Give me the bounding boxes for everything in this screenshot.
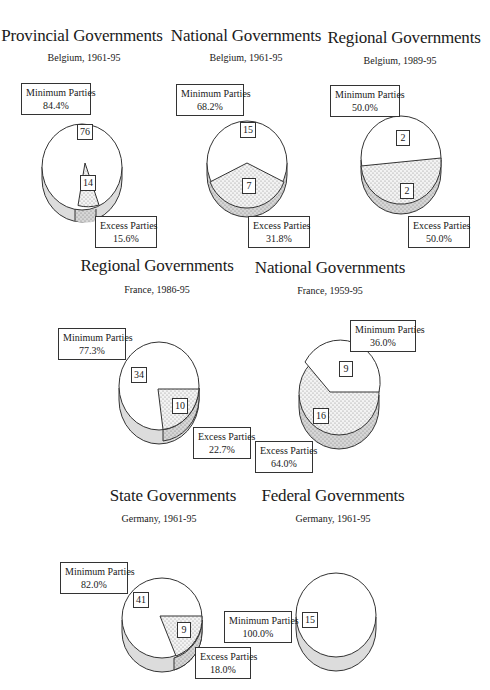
- chart-subtitle: Belgium, 1989-95: [364, 55, 437, 66]
- slice-count-minimum: 2: [396, 130, 410, 146]
- slice-count-excess: 14: [80, 175, 96, 191]
- slice-count-excess: 10: [172, 398, 188, 414]
- legend-percent: 50.0%: [413, 232, 465, 245]
- legend-label: Excess Parties: [200, 650, 246, 663]
- legend-label: Excess Parties: [253, 219, 305, 232]
- slice-count-excess: 9: [177, 622, 191, 638]
- legend-excess-parties: Excess Parties 31.8%: [248, 216, 310, 248]
- legend-excess-parties: Excess Parties 15.6%: [95, 216, 157, 248]
- chart-subtitle: Belgium, 1961-95: [48, 52, 121, 63]
- slice-count-minimum: 76: [77, 124, 93, 140]
- legend-excess-parties: Excess Parties 64.0%: [255, 441, 313, 473]
- chart-title: Regional Governments: [327, 28, 480, 48]
- legend-minimum-parties: Minimum Parties 100.0%: [224, 611, 292, 643]
- legend-percent: 82.0%: [65, 578, 123, 591]
- pie-france-national: [299, 340, 380, 449]
- legend-percent: 68.2%: [181, 100, 239, 113]
- chart-subtitle: Germany, 1961-95: [296, 513, 371, 524]
- legend-label: Minimum Parties: [229, 614, 287, 627]
- chart-subtitle: Belgium, 1961-95: [210, 52, 283, 63]
- pie-france-regional: [119, 342, 199, 444]
- chart-subtitle: France, 1959-95: [297, 285, 363, 296]
- legend-percent: 15.6%: [100, 232, 152, 245]
- legend-percent: 77.3%: [63, 344, 121, 357]
- legend-percent: 31.8%: [253, 232, 305, 245]
- legend-label: Excess Parties: [413, 219, 465, 232]
- legend-minimum-parties: Minimum Parties 82.0%: [60, 562, 128, 594]
- legend-percent: 36.0%: [355, 336, 411, 349]
- slice-count-minimum: 15: [240, 122, 256, 138]
- slice-count-minimum: 34: [131, 367, 147, 383]
- chart-title: State Governments: [110, 486, 236, 506]
- legend-label: Minimum Parties: [26, 86, 86, 99]
- slice-count-minimum: 41: [133, 592, 149, 608]
- legend-label: Minimum Parties: [63, 331, 121, 344]
- legend-percent: 64.0%: [260, 457, 308, 470]
- legend-label: Minimum Parties: [181, 87, 239, 100]
- legend-percent: 50.0%: [335, 101, 395, 114]
- chart-title: National Governments: [255, 258, 405, 278]
- legend-label: Minimum Parties: [335, 88, 395, 101]
- legend-excess-parties: Excess Parties 50.0%: [408, 216, 470, 248]
- legend-percent: 100.0%: [229, 627, 287, 640]
- legend-excess-parties: Excess Parties 18.0%: [195, 647, 251, 679]
- legend-percent: 84.4%: [26, 99, 86, 112]
- legend-label: Excess Parties: [198, 430, 246, 443]
- slice-count-minimum: 15: [302, 612, 318, 628]
- slice-count-minimum: 9: [339, 361, 353, 377]
- legend-minimum-parties: Minimum Parties 36.0%: [350, 320, 416, 352]
- slice-count-excess: 16: [313, 408, 329, 424]
- chart-title: Provincial Governments: [1, 26, 162, 46]
- legend-minimum-parties: Minimum Parties 50.0%: [330, 85, 400, 117]
- legend-label: Minimum Parties: [355, 323, 411, 336]
- legend-percent: 18.0%: [200, 663, 246, 676]
- chart-title: Regional Governments: [80, 256, 233, 276]
- legend-minimum-parties: Minimum Parties 77.3%: [58, 328, 126, 360]
- chart-title: National Governments: [171, 26, 321, 46]
- chart-subtitle: Germany, 1961-95: [122, 513, 197, 524]
- legend-percent: 22.7%: [198, 443, 246, 456]
- legend-label: Excess Parties: [100, 219, 152, 232]
- slice-count-excess: 7: [242, 178, 256, 194]
- chart-title: Federal Governments: [261, 486, 404, 506]
- legend-excess-parties: Excess Parties 22.7%: [193, 427, 251, 459]
- legend-label: Minimum Parties: [65, 565, 123, 578]
- legend-label: Excess Parties: [260, 444, 308, 457]
- slice-count-excess: 2: [400, 183, 414, 199]
- legend-minimum-parties: Minimum Parties 84.4%: [21, 83, 91, 115]
- chart-subtitle: France, 1986-95: [124, 284, 190, 295]
- legend-minimum-parties: Minimum Parties 68.2%: [176, 84, 244, 116]
